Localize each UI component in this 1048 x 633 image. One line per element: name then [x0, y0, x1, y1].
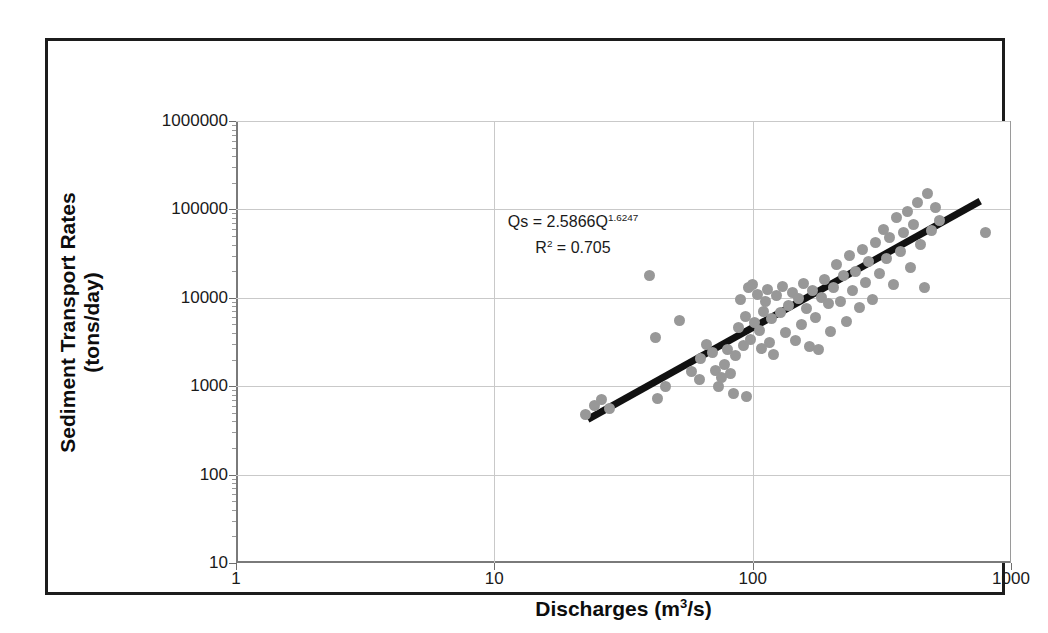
- data-point: [838, 270, 849, 281]
- y-tick-major: [229, 209, 236, 210]
- data-point: [674, 315, 685, 326]
- data-point: [895, 246, 906, 257]
- data-point: [825, 326, 836, 337]
- y-tick-label: 1000: [190, 376, 228, 396]
- x-axis-title-tail: /s): [687, 597, 712, 620]
- y-tick-major: [229, 298, 236, 299]
- data-point: [754, 325, 765, 336]
- data-point: [874, 268, 885, 279]
- data-point: [854, 302, 865, 313]
- data-point: [881, 253, 892, 264]
- data-point: [867, 294, 878, 305]
- data-point: [768, 349, 779, 360]
- data-point: [650, 332, 661, 343]
- y-tick-label: 100: [200, 465, 228, 485]
- data-point: [902, 206, 913, 217]
- data-point: [841, 316, 852, 327]
- x-tick-label: 10: [485, 569, 504, 589]
- y-axis-title: Sediment Transport Rates (tons/day): [56, 153, 103, 493]
- data-point: [793, 293, 804, 304]
- data-point: [908, 219, 919, 230]
- y-tick-major: [229, 121, 236, 122]
- plot-area: Qs = 2.5866Q1.6247 R2 = 0.705: [236, 121, 1011, 563]
- x-axis-tick-labels: 1101001000: [236, 569, 1011, 595]
- trendline: [236, 121, 1011, 563]
- y-tick-major: [229, 563, 236, 564]
- data-point: [694, 374, 705, 385]
- data-point: [790, 335, 801, 346]
- x-tick-label: 1000: [992, 569, 1030, 589]
- data-point: [728, 388, 739, 399]
- data-point: [580, 409, 591, 420]
- y-tick-label: 100000: [171, 199, 228, 219]
- figure-outer-frame: Sediment Transport Rates (tons/day) 1010…: [45, 38, 1005, 595]
- data-point: [660, 381, 671, 392]
- data-point: [860, 277, 871, 288]
- data-point: [796, 319, 807, 330]
- data-point: [777, 281, 788, 292]
- data-point: [898, 227, 909, 238]
- data-point: [850, 266, 861, 277]
- data-point: [745, 334, 756, 345]
- data-point: [764, 337, 775, 348]
- y-tick-label: 10000: [181, 288, 228, 308]
- data-point: [810, 312, 821, 323]
- x-tick-label: 1: [231, 569, 240, 589]
- data-point: [919, 282, 930, 293]
- data-point: [905, 262, 916, 273]
- x-axis-title: Discharges (m3/s): [236, 597, 1011, 621]
- x-axis-title-base: Discharges (m: [535, 597, 680, 620]
- figure-canvas: Sediment Transport Rates (tons/day) 1010…: [0, 0, 1048, 633]
- data-point: [823, 298, 834, 309]
- y-axis-tick-labels: 101001000100001000001000000: [108, 121, 228, 563]
- data-point: [835, 296, 846, 307]
- data-point: [930, 202, 941, 213]
- y-tick-major: [229, 386, 236, 387]
- y-axis-title-line1: Sediment Transport Rates: [56, 192, 79, 452]
- y-tick-major: [229, 475, 236, 476]
- x-tick-label: 100: [738, 569, 766, 589]
- data-point: [733, 322, 744, 333]
- data-point: [926, 225, 937, 236]
- y-tick-label: 1000000: [162, 111, 228, 131]
- data-layer: [236, 121, 1011, 563]
- y-tick-label: 10: [209, 553, 228, 573]
- y-axis-title-line2: (tons/day): [80, 272, 103, 372]
- data-point: [912, 197, 923, 208]
